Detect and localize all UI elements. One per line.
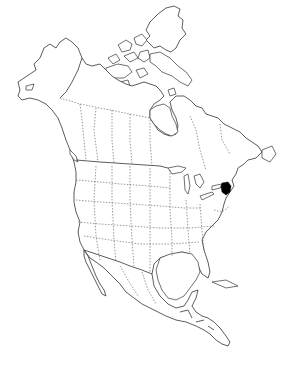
arctic-island	[138, 50, 150, 62]
arctic-island	[118, 40, 132, 52]
greenland	[146, 6, 186, 52]
arctic-island	[134, 34, 147, 46]
arctic-island	[136, 68, 148, 78]
arctic-island	[108, 54, 120, 64]
map-container: North America	[0, 0, 294, 371]
newfoundland	[262, 146, 276, 162]
arctic-island	[124, 52, 138, 62]
cuba	[212, 280, 238, 288]
north-america-map	[0, 0, 294, 371]
southampton-island	[168, 88, 176, 96]
baffin-island	[150, 52, 192, 86]
